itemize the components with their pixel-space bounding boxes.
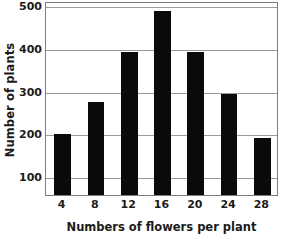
y-tick-label: 300 xyxy=(18,86,42,97)
gridline-500 xyxy=(46,7,277,8)
y-tick-label: 400 xyxy=(18,43,42,54)
bar-20 xyxy=(187,52,204,195)
x-axis-tick-labels: 481216202428 xyxy=(45,199,278,217)
y-tick-label: 500 xyxy=(18,1,42,12)
x-tick-label: 12 xyxy=(121,199,136,210)
x-tick-label: 4 xyxy=(58,199,66,210)
bar-28 xyxy=(254,138,271,195)
x-tick-label: 20 xyxy=(187,199,202,210)
bar-16 xyxy=(154,11,171,195)
bar-24 xyxy=(221,94,238,195)
bar-8 xyxy=(88,102,105,195)
plot-area xyxy=(45,2,278,196)
bar-chart: Number of plants 100200300400500 4812162… xyxy=(0,0,284,244)
x-tick-label: 24 xyxy=(220,199,235,210)
x-tick-label: 8 xyxy=(91,199,99,210)
bar-4 xyxy=(54,134,71,195)
bar-12 xyxy=(121,52,138,195)
x-axis-title: Numbers of flowers per plant xyxy=(45,220,278,234)
x-tick-label: 16 xyxy=(154,199,169,210)
y-tick-label: 100 xyxy=(18,171,42,182)
y-axis-tick-labels: 100200300400500 xyxy=(12,0,42,200)
x-tick-label: 28 xyxy=(254,199,269,210)
y-tick-label: 200 xyxy=(18,129,42,140)
